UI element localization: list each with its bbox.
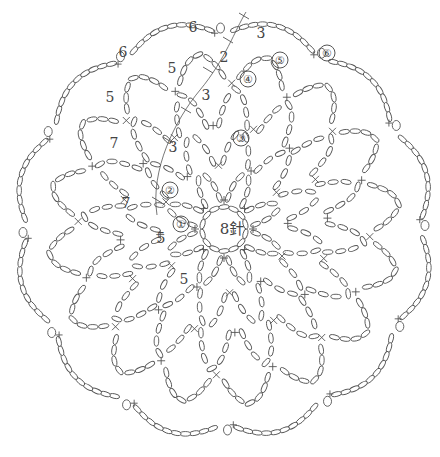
- round-marker-5: ⑤: [272, 52, 289, 69]
- chain-count-label: 5: [157, 231, 166, 245]
- chain-count-label: 7: [122, 196, 131, 210]
- chain-count-label: 3: [169, 140, 178, 154]
- round-marker-1: ①: [173, 216, 190, 233]
- round-marker-6: ⑥: [319, 45, 336, 62]
- chain-count-label: 2: [220, 50, 229, 64]
- chain-count-label: 3: [202, 88, 211, 102]
- chain-count-label: 3: [257, 26, 266, 40]
- round-marker-2: ②: [162, 182, 179, 199]
- center-stitch-count: 8針: [220, 222, 245, 237]
- chain-count-label: 6: [119, 45, 128, 59]
- crochet-chart: 8針 ① ② ③ ④ ⑤ ⑥ 6 3 6 2 5 5 3 7 3 7 5 5: [0, 0, 440, 457]
- round-marker-3: ③: [233, 130, 250, 147]
- chain-count-label: 7: [110, 136, 119, 150]
- round-marker-4: ④: [240, 71, 257, 88]
- chain-count-label: 6: [189, 20, 198, 34]
- chain-count-label: 5: [180, 272, 189, 286]
- chain-count-label: 5: [106, 90, 115, 104]
- chain-count-label: 5: [168, 61, 177, 75]
